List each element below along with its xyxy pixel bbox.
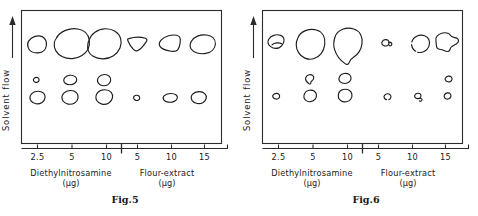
spot-blob bbox=[334, 28, 362, 64]
plate-frame bbox=[22, 11, 222, 144]
x-axis-group-unit: (µg) bbox=[304, 178, 321, 188]
x-axis-tick-label: 15 bbox=[199, 152, 210, 162]
y-axis-label: Solvent flow bbox=[1, 69, 11, 131]
spot-blob bbox=[134, 95, 140, 100]
plate-frame bbox=[263, 11, 463, 144]
y-axis-label: Solvent flow bbox=[242, 69, 252, 131]
solvent-flow-arrow-icon bbox=[250, 16, 256, 58]
tlc-plate-fig5: Solvent flow bbox=[0, 0, 239, 216]
spot-blob bbox=[163, 93, 177, 102]
x-axis-group-unit: (µg) bbox=[159, 178, 176, 188]
spot-blob bbox=[62, 91, 78, 105]
spot-blob bbox=[436, 33, 459, 52]
figure-caption: Fig.5 bbox=[111, 194, 138, 205]
x-axis-group-label: Flour-extract bbox=[140, 168, 195, 178]
solvent-flow-arrow-icon bbox=[9, 16, 15, 58]
x-axis-tick-label: 5 bbox=[69, 152, 75, 162]
spot-blob bbox=[191, 92, 206, 104]
x-axis-tick-label: 15 bbox=[440, 152, 451, 162]
x-axis-tick-label: 10 bbox=[407, 152, 418, 162]
x-axis-tick-label: 5 bbox=[376, 152, 382, 162]
spot-blob bbox=[98, 75, 111, 86]
spot-blob bbox=[54, 29, 89, 59]
spot-blob bbox=[445, 76, 452, 82]
spot-blob bbox=[273, 93, 280, 99]
spot-blob bbox=[384, 96, 387, 99]
figure-panel-fig6: Solvent flow bbox=[239, 0, 478, 216]
spot-blob bbox=[444, 93, 451, 99]
x-axis-group-label: Diethylnitrosamine bbox=[271, 168, 352, 178]
spot-blob bbox=[338, 89, 352, 102]
x-axis-tick-label: 10 bbox=[166, 152, 177, 162]
spot-blob bbox=[304, 90, 317, 102]
x-axis-tick-label: 2.5 bbox=[272, 152, 286, 162]
spot-blob bbox=[415, 93, 421, 98]
tlc-plate-fig6: Solvent flow bbox=[239, 0, 478, 216]
x-axis-tick-label: 5 bbox=[135, 152, 141, 162]
spot-blob bbox=[64, 75, 77, 84]
x-axis-tick-label: 2.5 bbox=[31, 152, 45, 162]
spot-blob bbox=[128, 37, 147, 51]
spot-blob bbox=[296, 29, 325, 59]
x-axis-tick-label: 10 bbox=[342, 152, 353, 162]
x-axis-group-label: Flour-extract bbox=[381, 168, 436, 178]
spot-blob bbox=[30, 91, 45, 104]
spot-blob bbox=[412, 45, 416, 52]
spot-blob bbox=[88, 29, 121, 59]
figure-pair: Solvent flow bbox=[0, 0, 478, 216]
x-axis-tick-label: 5 bbox=[310, 152, 316, 162]
spot-blob bbox=[339, 73, 351, 83]
spot-blob bbox=[190, 35, 215, 54]
spot-blob bbox=[33, 77, 39, 82]
spot-blob bbox=[28, 36, 47, 53]
spot-blob bbox=[268, 35, 284, 48]
spot-blob bbox=[96, 90, 113, 105]
spot-blob bbox=[419, 98, 422, 101]
x-axis-group-unit: (µg) bbox=[400, 178, 417, 188]
x-axis-group-label: Diethylnitrosamine bbox=[30, 168, 111, 178]
figure-panel-fig5: Solvent flow bbox=[0, 0, 239, 216]
spot-blob bbox=[272, 43, 282, 45]
spot-blob bbox=[159, 35, 180, 51]
figure-caption: Fig.6 bbox=[352, 194, 380, 205]
x-axis-tick-label: 10 bbox=[101, 152, 112, 162]
x-axis-group-unit: (µg) bbox=[63, 178, 80, 188]
spot-blob bbox=[306, 75, 314, 84]
